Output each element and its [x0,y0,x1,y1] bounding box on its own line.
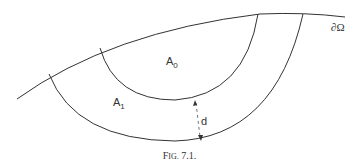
figure-diagram [0,0,359,164]
outer-arc [49,14,303,141]
boundary-label: ∂Ω [331,21,345,33]
region-a0-label: A0 [166,55,178,70]
figure-caption: FIG. 7.1. [0,150,359,161]
distance-dashed-line [196,103,200,137]
boundary-curve [17,13,345,99]
inner-arc [100,14,258,100]
distance-label: d [201,115,207,127]
region-a1-label: A1 [113,96,125,111]
